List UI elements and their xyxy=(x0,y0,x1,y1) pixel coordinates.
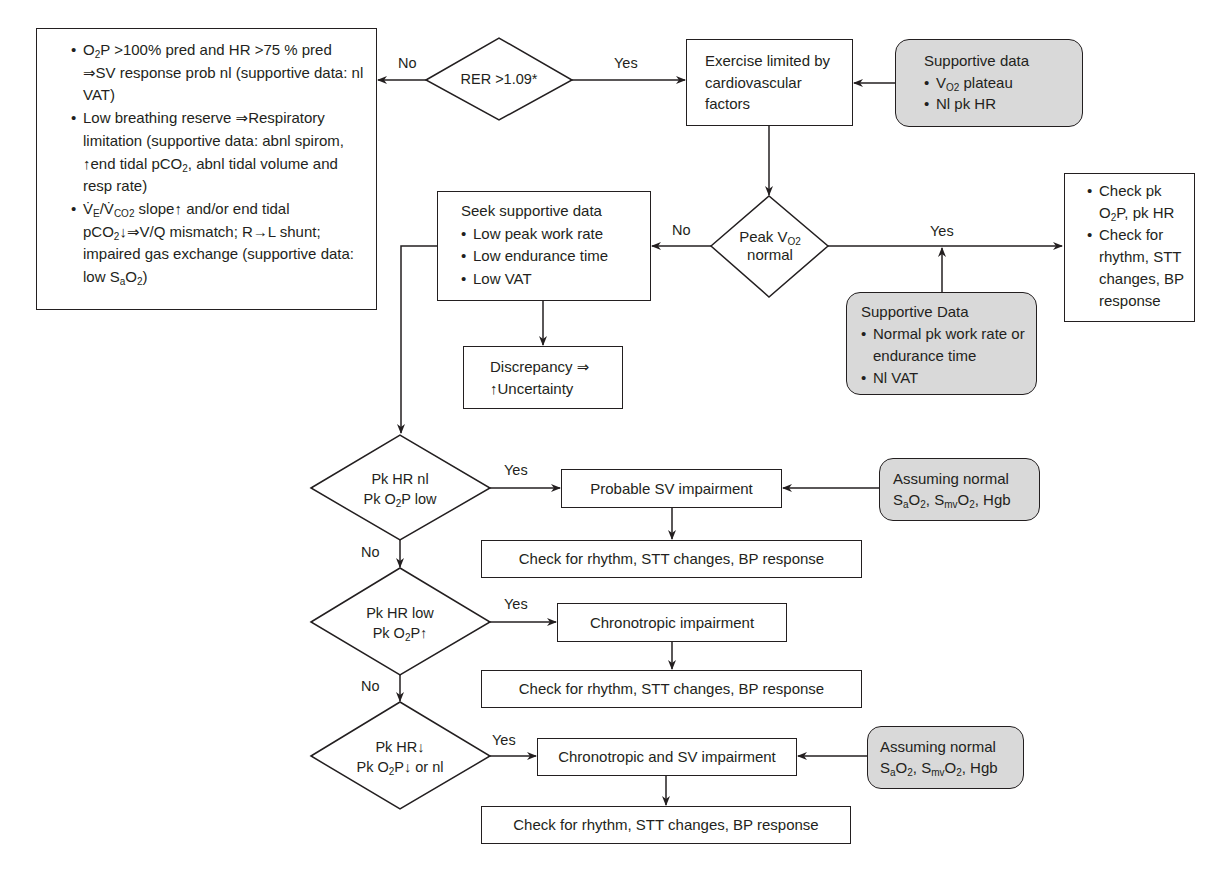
nl-pk-hr-item: Nl pk HR xyxy=(924,93,1074,115)
chronotropic-impairment-box: Chronotropic impairment xyxy=(557,603,787,642)
supportive-data-top-box: Supportive data VO2 plateau Nl pk HR xyxy=(895,39,1083,127)
d1-no-label: No xyxy=(361,544,380,560)
supportive-data-lower-box: Supportive Data Normal pk work rate or e… xyxy=(846,292,1037,395)
check-pk-o2p-item: Check pk O2P, pk HR xyxy=(1087,180,1188,224)
check-rhythm-box-3: Check for rhythm, STT changes, BP respon… xyxy=(481,806,851,844)
rer-decision-label: RER >1.09* xyxy=(440,70,558,88)
rer-yes-label: Yes xyxy=(614,55,638,71)
peak-no-label: No xyxy=(672,222,691,238)
seek-item-work-rate: Low peak work rate xyxy=(461,223,642,246)
seek-title: Seek supportive data xyxy=(461,200,642,223)
peak-vo2-decision-label: Peak VO2 normal xyxy=(726,228,814,264)
d3-yes-label: Yes xyxy=(492,732,516,748)
check-rhythm-box-2: Check for rhythm, STT changes, BP respon… xyxy=(481,670,862,708)
non-cardiac-limitations-box: O2P >100% pred and HR >75 % pred ⇒SV res… xyxy=(36,28,377,310)
normal-work-rate-item: Normal pk work rate or endurance time xyxy=(861,323,1028,367)
check-rhythm-item: Check for rhythm, STT changes, BP respon… xyxy=(1087,224,1188,312)
discrepancy-box: Discrepancy ⇒ ↑Uncertainty xyxy=(463,346,623,409)
decision-1-label: Pk HR nl Pk O2P low xyxy=(340,469,460,509)
check-rhythm-box-1: Check for rhythm, STT changes, BP respon… xyxy=(481,540,862,578)
rer-no-label: No xyxy=(398,55,417,71)
chronotropic-sv-impairment-box: Chronotropic and SV impairment xyxy=(537,738,797,776)
peak-yes-label: Yes xyxy=(930,223,954,239)
assuming-normal-box-1: Assuming normal SaO2, SmvO2, Hgb xyxy=(879,458,1040,521)
d2-no-label: No xyxy=(361,678,380,694)
seek-item-vat: Low VAT xyxy=(461,268,642,291)
d2-yes-label: Yes xyxy=(504,596,528,612)
bullet-breathing-reserve: Low breathing reserve ⇒Respiratory limit… xyxy=(71,107,366,198)
d1-yes-label: Yes xyxy=(504,462,528,478)
assuming-normal-box-2: Assuming normal SaO2, SmvO2, Hgb xyxy=(867,726,1024,789)
decision-3-label: Pk HR↓ Pk O2P↓ or nl xyxy=(335,737,465,777)
exercise-limited-box: Exercise limited by cardiovascular facto… xyxy=(686,39,853,126)
seek-item-endurance: Low endurance time xyxy=(461,245,642,268)
bullet-ve-vco2-slope: V̇E/V̇CO2 slope↑ and/or end tidal pCO2↓⇒… xyxy=(71,198,366,289)
supportive-title: Supportive data xyxy=(924,50,1074,72)
nl-vat-item: Nl VAT xyxy=(861,367,1028,389)
decision-2-label: Pk HR low Pk O2P↑ xyxy=(340,603,460,643)
bullet-o2p-sv: O2P >100% pred and HR >75 % pred ⇒SV res… xyxy=(71,39,366,107)
vo2-plateau-item: VO2 plateau xyxy=(924,72,1074,94)
seek-supportive-data-box: Seek supportive data Low peak work rate … xyxy=(437,191,651,301)
supportive-lower-title: Supportive Data xyxy=(861,301,1028,323)
check-pk-box: Check pk O2P, pk HR Check for rhythm, ST… xyxy=(1064,173,1195,322)
probable-sv-impairment-box: Probable SV impairment xyxy=(561,469,782,508)
